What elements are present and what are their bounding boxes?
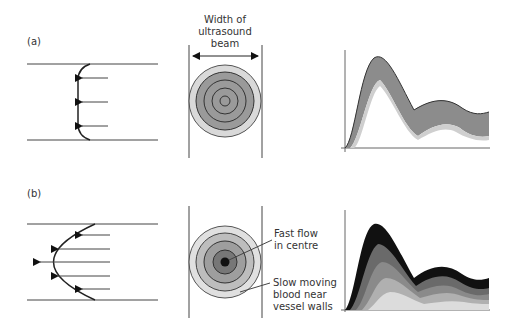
slow-flow-annotation: Slow moving blood near vessel walls: [273, 277, 337, 313]
doppler-spectrum-a: [341, 50, 490, 152]
beam-cross-section-b: [189, 206, 272, 318]
panel-b-label: (b): [27, 188, 41, 200]
fast-flow-annotation: Fast flow in centre: [274, 228, 318, 252]
annotation-line: blood near: [273, 289, 337, 301]
beam-title-line: ultrasound: [185, 26, 265, 38]
annotation-line: Slow moving: [273, 277, 337, 289]
annotation-line: in centre: [274, 240, 318, 252]
panel-a-label: (a): [27, 36, 41, 48]
doppler-spectrum-b: [341, 210, 490, 312]
beam-title-line: Width of: [185, 14, 265, 26]
vessel-b: [27, 224, 158, 300]
beam-width-title: Width of ultrasound beam: [185, 14, 265, 50]
vessel-a: [27, 64, 158, 140]
annotation-line: vessel walls: [273, 301, 337, 313]
beam-cross-section-a: [189, 45, 262, 158]
beam-title-line: beam: [185, 38, 265, 50]
annotation-line: Fast flow: [274, 228, 318, 240]
